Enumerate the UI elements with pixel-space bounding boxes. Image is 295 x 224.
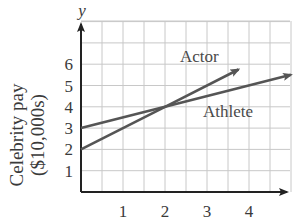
y-tick-label: 1 xyxy=(65,162,74,181)
y-tick-label: 4 xyxy=(65,98,74,117)
x-tick-label: 2 xyxy=(161,202,170,221)
x-tick-label: 4 xyxy=(245,202,254,221)
tick-labels: 1234123456 xyxy=(65,55,254,221)
series-label-athlete: Athlete xyxy=(203,102,253,121)
x-tick-label: 1 xyxy=(119,202,128,221)
y-tick-label: 3 xyxy=(65,119,74,138)
x-tick-label: 3 xyxy=(203,202,212,221)
y-axis-name: y xyxy=(76,1,86,20)
y-tick-label: 2 xyxy=(65,140,74,159)
y-tick-label: 5 xyxy=(65,77,74,96)
series-label-actor: Actor xyxy=(180,47,219,66)
line-chart: 1234123456 y Actor Athlete xyxy=(0,0,295,224)
y-tick-label: 6 xyxy=(65,55,74,74)
